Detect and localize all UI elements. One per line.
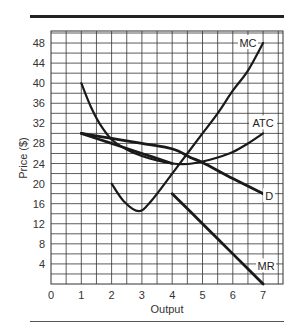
y-tick: 44 bbox=[33, 57, 45, 69]
x-tick: 2 bbox=[109, 289, 115, 301]
y-tick: 24 bbox=[33, 158, 45, 170]
y-tick-labels: 4812162024283236404448 bbox=[33, 37, 45, 270]
y-tick: 40 bbox=[33, 77, 45, 89]
y-tick: 8 bbox=[39, 238, 45, 250]
x-tick: 0 bbox=[48, 289, 54, 301]
x-tick: 5 bbox=[199, 289, 205, 301]
cost-revenue-chart: MCATCDMR 4812162024283236404448 01234567… bbox=[0, 0, 298, 329]
y-tick: 20 bbox=[33, 178, 45, 190]
y-axis-label: Price ($) bbox=[17, 137, 29, 179]
y-tick: 16 bbox=[33, 198, 45, 210]
x-tick: 1 bbox=[78, 289, 84, 301]
y-tick: 36 bbox=[33, 97, 45, 109]
y-tick: 28 bbox=[33, 137, 45, 149]
d-label: D bbox=[265, 190, 273, 202]
y-tick: 48 bbox=[33, 37, 45, 49]
x-tick: 7 bbox=[260, 289, 266, 301]
x-tick: 3 bbox=[139, 289, 145, 301]
x-axis-label: Output bbox=[150, 303, 183, 315]
y-tick: 12 bbox=[33, 218, 45, 230]
mr-label: MR bbox=[258, 260, 275, 272]
x-tick-labels: 01234567 bbox=[48, 289, 266, 301]
x-tick: 4 bbox=[169, 289, 175, 301]
y-tick: 4 bbox=[39, 258, 45, 270]
mc-label: MC bbox=[239, 37, 256, 49]
y-tick: 32 bbox=[33, 117, 45, 129]
x-tick: 6 bbox=[230, 289, 236, 301]
atc-label: ATC bbox=[253, 117, 274, 129]
